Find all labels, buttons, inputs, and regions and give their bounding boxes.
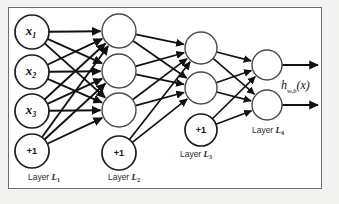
neuron-o1	[252, 50, 282, 80]
bias-label-bias3: +1	[196, 126, 206, 135]
connection-edge	[135, 93, 184, 106]
output-function-label: hw,b(x)	[281, 79, 310, 94]
neuron-b1	[185, 32, 217, 64]
bias-label-bias1: +1	[27, 147, 37, 156]
neuron-o2	[252, 90, 282, 120]
neuron-label-x2: x2	[26, 64, 37, 81]
connection-edge	[47, 118, 102, 144]
connection-edge	[216, 111, 252, 124]
layer-caption-L1: Layer L1	[28, 173, 60, 184]
connection-edge	[136, 34, 184, 44]
connection-edge	[216, 70, 251, 82]
bias-label-bias2: +1	[114, 149, 124, 158]
connection-edge	[129, 62, 190, 140]
layer-caption-L3: Layer L3	[180, 150, 212, 161]
layer-caption-L2: Layer L2	[108, 173, 140, 184]
neuron-a2	[102, 54, 136, 88]
diagram-canvas: x1x2x3+1Layer L1+1Layer L2+1Layer L3Laye…	[0, 0, 339, 204]
connection-edge	[135, 53, 184, 67]
neuron-a1	[102, 14, 136, 48]
neuron-b2	[185, 72, 217, 104]
connection-edge	[132, 99, 187, 143]
connection-edge	[216, 92, 251, 101]
neuron-a3	[102, 93, 136, 127]
connection-edge	[216, 52, 251, 61]
neuron-label-x1: x1	[26, 24, 37, 41]
connection-edge	[49, 31, 101, 32]
layer-caption-L4: Layer L4	[252, 126, 284, 137]
neuron-label-x3: x3	[26, 103, 37, 120]
